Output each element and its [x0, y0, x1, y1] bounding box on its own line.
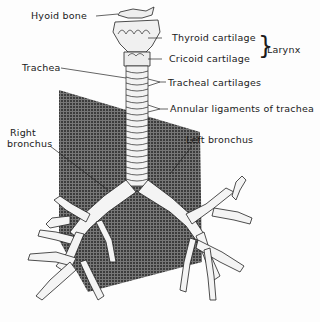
- label-right-bronchus-line2: bronchus: [7, 138, 52, 149]
- label-right-bronchus-line1: Right: [10, 127, 36, 138]
- label-cricoid-cartilage: Cricoid cartilage: [169, 53, 250, 64]
- label-hyoid-bone: Hyoid bone: [31, 10, 87, 21]
- hyoid-bone: [118, 7, 154, 18]
- label-tracheal-cartilages: Tracheal cartilages: [168, 77, 261, 88]
- label-thyroid-cartilage: Thyroid cartilage: [172, 32, 256, 43]
- anatomy-diagram: Hyoid bone Thyroid cartilage Cricoid car…: [0, 0, 320, 322]
- label-annular-ligaments: Annular ligaments of trachea: [170, 103, 314, 114]
- thyroid-cartilage: [113, 20, 160, 52]
- trachea: [126, 66, 148, 186]
- label-larynx: Larynx: [267, 44, 301, 55]
- label-trachea: Trachea: [22, 62, 60, 73]
- label-left-bronchus: Left bronchus: [186, 134, 253, 145]
- cricoid-cartilage: [124, 52, 150, 66]
